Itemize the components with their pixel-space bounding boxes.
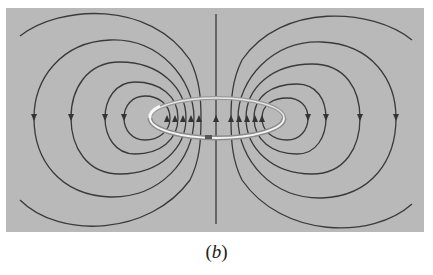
ring-gap bbox=[205, 135, 212, 139]
caption-letter: b bbox=[212, 241, 222, 262]
figure-caption: (b) bbox=[0, 241, 433, 263]
caption-close-paren: ) bbox=[221, 241, 227, 262]
field-line-diagram bbox=[0, 0, 433, 275]
